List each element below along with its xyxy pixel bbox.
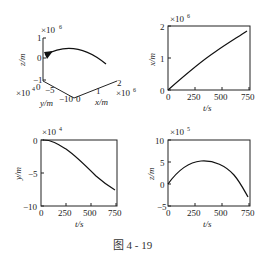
xt-scale-exp: 6 (187, 13, 190, 19)
yt-xtick-250: 250 (58, 208, 72, 218)
y-axis-label: y/m (39, 98, 53, 108)
figure-caption: 图 4 - 19 (0, 236, 265, 252)
xt-xtick-0: 0 (166, 92, 171, 102)
x-tick-2: 2 (117, 78, 122, 88)
xt-xtick-250: 250 (187, 92, 201, 102)
zt-xtick-750: 750 (241, 208, 255, 218)
x-scale: ×10 (116, 88, 131, 98)
x-tick-1: 1 (96, 86, 101, 96)
xt-xtick-750: 750 (241, 92, 255, 102)
zt-xtick-0: 0 (166, 208, 171, 218)
yt-ylabel: y/m (13, 167, 23, 181)
y-tick-0: 0 (36, 82, 41, 92)
xt-ytick-2: 2 (160, 22, 165, 32)
zt-ylabel: z/m (146, 167, 156, 181)
zt-xtick-250: 250 (187, 208, 201, 218)
panel-z-vs-t: 10 5 0 −5 ×10 5 z/m 0 250 500 750 t/s (146, 126, 255, 229)
zt-scale: ×10 (170, 127, 185, 137)
y-curve (43, 140, 115, 190)
x-axis-label: x/m (94, 97, 108, 107)
yt-xtick-750: 750 (108, 208, 122, 218)
x-curve (168, 31, 247, 90)
xt-xtick-500: 500 (214, 92, 228, 102)
xt-ytick-1: 1 (160, 54, 165, 64)
xt-ylabel: x/m (147, 53, 157, 67)
yt-xtick-0: 0 (39, 208, 44, 218)
xt-ytick-0: 0 (160, 86, 165, 96)
yt-xtick-500: 500 (83, 208, 97, 218)
yt-scale-exp: 4 (59, 126, 62, 132)
zt-xlabel: t/s (203, 219, 212, 229)
panel-x-vs-t: 2 1 0 ×10 6 x/m 0 250 500 750 t/s (147, 13, 255, 113)
yt-ytick-neg10: −10 (23, 202, 38, 212)
trajectory-curve (45, 48, 106, 64)
zt-scale-exp: 5 (187, 126, 190, 132)
x-scale-exp: 6 (133, 87, 136, 93)
y-scale-exp: 4 (32, 86, 35, 92)
figure: 1 0 −1 ×10 6 z/m 0 −5 −10 ×10 4 y/m 0 1 … (0, 0, 265, 262)
y-tick-neg10: −10 (59, 94, 74, 104)
z-curve (168, 161, 248, 197)
yt-ytick-0: 0 (33, 136, 38, 146)
z-scale: ×10 (41, 25, 56, 35)
zt-ytick-10: 10 (155, 136, 165, 146)
y-scale: ×10 (16, 88, 31, 98)
yt-ytick-neg5: −5 (28, 169, 38, 179)
zt-xtick-500: 500 (214, 208, 228, 218)
xt-xlabel: t/s (203, 103, 212, 113)
z-tick-0: 0 (37, 53, 42, 63)
z-axis-label: z/m (17, 53, 27, 67)
xt-scale: ×10 (170, 14, 185, 24)
panel-y-vs-t: 0 −5 −10 ×10 4 y/m 0 250 500 750 t/s (13, 126, 122, 229)
x-tick-0: 0 (76, 94, 81, 104)
z-scale-exp: 6 (59, 24, 62, 30)
panel-3d-trajectory: 1 0 −1 ×10 6 z/m 0 −5 −10 ×10 4 y/m 0 1 … (16, 24, 136, 108)
yt-scale: ×10 (42, 127, 57, 137)
y-tick-neg5: −5 (45, 85, 55, 95)
zt-ytick-0: 0 (160, 180, 165, 190)
yt-xlabel: t/s (75, 219, 84, 229)
zt-ytick-5: 5 (160, 158, 165, 168)
